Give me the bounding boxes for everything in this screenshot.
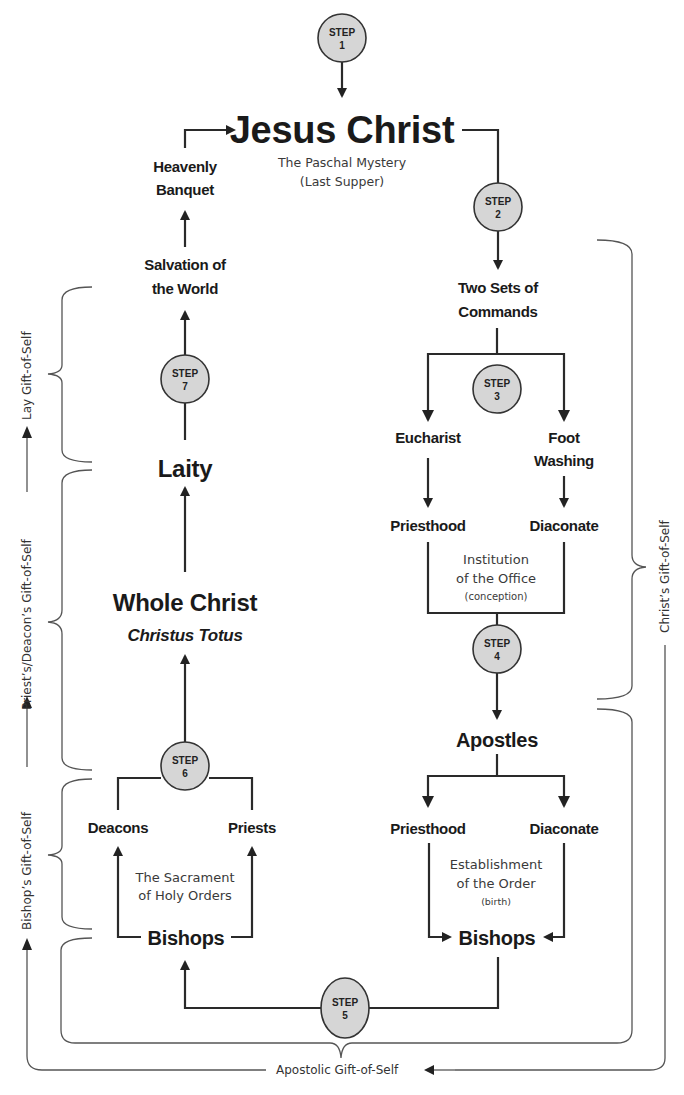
step-7: STEP 7 bbox=[161, 355, 209, 403]
two-sets-2: Commands bbox=[458, 303, 537, 320]
step-4-label: STEP bbox=[484, 638, 510, 649]
deacons: Deacons bbox=[88, 819, 148, 836]
two-sets-1: Two Sets of bbox=[458, 279, 539, 296]
step-7-num: 7 bbox=[182, 381, 188, 392]
institution-1: Institution bbox=[463, 552, 529, 567]
diaconate-1: Diaconate bbox=[530, 517, 599, 534]
sacrament-2: of Holy Orders bbox=[138, 888, 232, 903]
step-3-label: STEP bbox=[484, 378, 510, 389]
priest-deacon-gift-label: Priest’s/Deacon’s Gift-of-Self bbox=[20, 538, 34, 710]
diaconate-2: Diaconate bbox=[530, 820, 599, 837]
christus-totus: Christus Totus bbox=[127, 626, 242, 645]
bishops-left: Bishops bbox=[148, 927, 225, 949]
step-6-label: STEP bbox=[172, 755, 198, 766]
step-3-num: 3 bbox=[494, 391, 500, 402]
step-1: STEP 1 bbox=[318, 14, 366, 62]
step-6-num: 6 bbox=[182, 768, 188, 779]
step-6: STEP 6 bbox=[161, 742, 209, 790]
christ-gift-label: Christ’s Gift-of-Self bbox=[658, 519, 672, 633]
laity: Laity bbox=[158, 455, 213, 482]
lay-gift-label: Lay Gift-of-Self bbox=[20, 331, 34, 420]
establishment-3: (birth) bbox=[481, 896, 511, 907]
gift-of-self-diagram: STEP 1 STEP 2 STEP 3 STEP 4 STEP 5 STEP … bbox=[0, 0, 684, 1095]
step-2-num: 2 bbox=[495, 209, 501, 220]
step-5: STEP 5 bbox=[321, 978, 369, 1038]
paschal-mystery: The Paschal Mystery bbox=[277, 155, 407, 170]
institution-3: (conception) bbox=[465, 591, 528, 602]
jesus-christ-title: Jesus Christ bbox=[230, 109, 455, 151]
step-5-label: STEP bbox=[332, 997, 358, 1008]
heavenly-banquet-2: Banquet bbox=[156, 181, 214, 198]
foot-washing-2: Washing bbox=[534, 452, 594, 469]
bishops-right: Bishops bbox=[459, 927, 536, 949]
priests: Priests bbox=[228, 819, 276, 836]
establishment-2: of the Order bbox=[456, 876, 536, 891]
step-7-label: STEP bbox=[172, 368, 198, 379]
step-5-num: 5 bbox=[342, 1010, 348, 1021]
step-1-label: STEP bbox=[329, 27, 355, 38]
foot-washing-1: Foot bbox=[548, 429, 580, 446]
heavenly-banquet-1: Heavenly bbox=[153, 158, 217, 175]
apostles: Apostles bbox=[456, 729, 538, 751]
step-2: STEP 2 bbox=[474, 183, 522, 231]
priesthood-1: Priesthood bbox=[390, 517, 465, 534]
step-4: STEP 4 bbox=[473, 625, 521, 673]
priesthood-2: Priesthood bbox=[390, 820, 465, 837]
brackets bbox=[22, 240, 665, 1070]
bishop-gift-label: Bishop’s Gift-of-Self bbox=[20, 811, 34, 930]
last-supper: (Last Supper) bbox=[300, 174, 384, 189]
step-1-num: 1 bbox=[339, 40, 345, 51]
step-3: STEP 3 bbox=[473, 365, 521, 413]
salvation-2: the World bbox=[152, 280, 218, 297]
sacrament-1: The Sacrament bbox=[135, 870, 235, 885]
establishment-1: Establishment bbox=[450, 857, 543, 872]
salvation-1: Salvation of bbox=[144, 256, 227, 273]
apostolic-gift-label: Apostolic Gift-of-Self bbox=[276, 1063, 399, 1077]
institution-2: of the Office bbox=[456, 571, 536, 586]
step-2-label: STEP bbox=[485, 196, 511, 207]
whole-christ: Whole Christ bbox=[113, 589, 258, 616]
step-4-num: 4 bbox=[494, 651, 500, 662]
eucharist: Eucharist bbox=[395, 429, 461, 446]
